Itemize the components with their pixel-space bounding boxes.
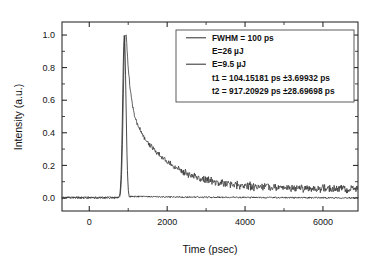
x-tick-label: 4000 [235, 217, 255, 227]
legend-entry-label: t2 = 917.20929 ps ±28.69698 ps [212, 86, 335, 96]
legend-entry-label: E=9.5 µJ [212, 59, 246, 69]
y-tick-label: 0.4 [42, 128, 55, 138]
legend-entry-label: E=26 µJ [212, 46, 244, 56]
intensity-vs-time-chart: 0200040006000 0.00.20.40.60.81.0 Time (p… [0, 0, 378, 263]
legend-entry-label: t1 = 104.15181 ps ±3.69932 ps [212, 73, 330, 83]
legend-entry-label: FWHM = 100 ps [212, 33, 274, 43]
y-axis-title: Intensity (a.u.) [12, 84, 24, 151]
y-tick-label: 0.6 [42, 95, 55, 105]
y-tick-label: 0.2 [42, 161, 55, 171]
figure-canvas: 0200040006000 0.00.20.40.60.81.0 Time (p… [0, 0, 378, 263]
y-tick-label: 1.0 [42, 30, 55, 40]
x-tick-label: 0 [87, 217, 92, 227]
x-tick-label: 6000 [313, 217, 333, 227]
chart-legend: FWHM = 100 psE=26 µJE=9.5 µJt1 = 104.151… [176, 30, 354, 102]
y-tick-label: 0.8 [42, 63, 55, 73]
y-tick-label: 0.0 [42, 193, 55, 203]
x-tick-label: 2000 [157, 217, 177, 227]
x-axis-title: Time (psec) [182, 243, 237, 255]
